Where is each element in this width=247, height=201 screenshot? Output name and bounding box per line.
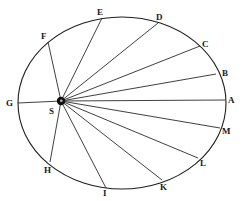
sun-focus	[57, 97, 65, 105]
point-label-b: B	[222, 68, 228, 78]
radius-line-l	[61, 101, 198, 158]
radius-line-c	[61, 46, 200, 101]
radius-line-m	[61, 101, 220, 128]
point-labels: ABCDEFGHIKLMS	[6, 7, 235, 198]
point-label-g: G	[6, 98, 13, 108]
point-label-i: I	[103, 188, 107, 198]
radius-line-f	[48, 42, 61, 101]
radius-line-k	[61, 101, 162, 180]
radius-line-b	[61, 74, 216, 101]
point-label-k: K	[160, 182, 167, 192]
point-label-c: C	[202, 39, 209, 49]
radius-line-i	[61, 101, 106, 188]
point-label-f: F	[41, 31, 47, 41]
point-label-d: D	[156, 12, 163, 22]
radius-vectors	[18, 18, 225, 188]
radius-line-d	[61, 23, 158, 101]
sun-highlight	[60, 99, 63, 102]
radius-line-g	[18, 101, 61, 103]
radius-line-a	[61, 100, 225, 101]
point-label-h: H	[44, 165, 51, 175]
point-label-e: E	[97, 7, 103, 17]
elliptical-orbit	[18, 17, 226, 189]
point-label-a: A	[228, 95, 235, 105]
point-label-m: M	[222, 126, 231, 136]
point-label-l: L	[200, 158, 206, 168]
focus-label-s: S	[49, 106, 54, 116]
orbit-diagram: ABCDEFGHIKLMS	[0, 0, 247, 201]
